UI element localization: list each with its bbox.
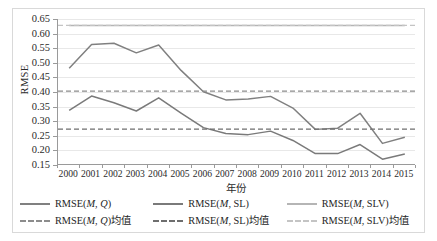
y-tick-label: 0.15 (32, 160, 50, 171)
y-tick-mark (53, 121, 57, 122)
legend-swatch-rmse-m-q-mean (20, 216, 50, 226)
x-tick-mark (57, 165, 58, 168)
y-tick-mark (53, 107, 57, 108)
x-tick-mark (393, 165, 394, 168)
y-tick-label: 0.30 (32, 116, 50, 127)
y-tick-label: 0.50 (32, 58, 50, 69)
legend-swatch-rmse-m-sl-mean (153, 216, 183, 226)
y-axis-tick-labels: 0.650.600.550.500.450.400.350.300.250.20… (12, 19, 54, 165)
x-tick-label: 2004 (148, 168, 167, 179)
x-tick-mark (214, 165, 215, 168)
x-tick-mark (370, 165, 371, 168)
x-tick-label: 2013 (349, 168, 368, 179)
x-tick-label: 2007 (215, 168, 234, 179)
x-tick-mark (303, 165, 304, 168)
x-tick-mark (258, 165, 259, 168)
legend-label-rmse-m-sl-mean: RMSE(M, SL)均值 (188, 215, 269, 226)
x-tick-label: 2006 (193, 168, 212, 179)
x-tick-mark (147, 165, 148, 168)
legend-row-solid: RMSE(M, Q) RMSE(M, SL) RMSE(M, SLV) (20, 196, 420, 211)
legend-item-rmse-m-q: RMSE(M, Q) (20, 196, 153, 211)
x-tick-mark (191, 165, 192, 168)
y-tick-label: 0.35 (32, 101, 50, 112)
x-tick-label: 2005 (170, 168, 189, 179)
x-tick-label: 2012 (327, 168, 346, 179)
y-tick-label: 0.60 (32, 28, 50, 39)
x-tick-mark (415, 165, 416, 168)
legend-label-rmse-m-q-mean: RMSE(M, Q)均值 (55, 215, 131, 226)
legend-item-rmse-m-slv-mean: RMSE(M, SLV)均值 (287, 213, 420, 228)
y-tick-mark (53, 92, 57, 93)
plot-area (57, 19, 415, 165)
y-tick-mark (53, 19, 57, 20)
y-tick-mark (53, 34, 57, 35)
x-tick-mark (348, 165, 349, 168)
x-tick-label: 2003 (126, 168, 145, 179)
x-tick-label: 2015 (394, 168, 413, 179)
x-tick-mark (236, 165, 237, 168)
legend-swatch-rmse-m-q (20, 199, 50, 209)
legend-item-rmse-m-sl-mean: RMSE(M, SL)均值 (153, 213, 286, 228)
x-tick-mark (281, 165, 282, 168)
x-tick-mark (79, 165, 80, 168)
legend-item-rmse-m-q-mean: RMSE(M, Q)均值 (20, 213, 153, 228)
legend-item-rmse-m-sl: RMSE(M, SL) (153, 196, 286, 211)
x-tick-label: 2000 (59, 168, 78, 179)
y-tick-label: 0.65 (32, 14, 50, 25)
x-tick-label: 2001 (81, 168, 100, 179)
legend-label-rmse-m-sl: RMSE(M, SL) (188, 198, 249, 209)
legend-item-rmse-m-slv: RMSE(M, SLV) (287, 196, 420, 211)
y-tick-label: 0.40 (32, 87, 50, 98)
y-tick-label: 0.25 (32, 131, 50, 142)
y-tick-mark (53, 63, 57, 64)
series-line (69, 96, 405, 159)
legend-label-rmse-m-slv: RMSE(M, SLV) (322, 198, 389, 209)
legend-row-dashed: RMSE(M, Q)均值 RMSE(M, SL)均值 RMSE(M, SLV)均… (20, 213, 420, 228)
x-tick-label: 2011 (305, 168, 324, 179)
chart-legend: RMSE(M, Q) RMSE(M, SL) RMSE(M, SLV) RMSE… (20, 196, 420, 228)
x-tick-label: 2002 (103, 168, 122, 179)
legend-swatch-rmse-m-slv-mean (287, 216, 317, 226)
series-line (69, 43, 405, 143)
series-lines (58, 19, 416, 165)
y-tick-mark (53, 48, 57, 49)
legend-label-rmse-m-q: RMSE(M, Q) (55, 198, 111, 209)
y-tick-label: 0.20 (32, 145, 50, 156)
x-tick-label: 2008 (238, 168, 257, 179)
legend-swatch-rmse-m-slv (287, 199, 317, 209)
x-tick-mark (124, 165, 125, 168)
x-tick-mark (169, 165, 170, 168)
x-tick-label: 2009 (260, 168, 279, 179)
y-tick-mark (53, 136, 57, 137)
y-tick-mark (53, 77, 57, 78)
x-tick-label: 2014 (372, 168, 391, 179)
y-tick-label: 0.45 (32, 72, 50, 83)
x-tick-label: 2010 (282, 168, 301, 179)
y-tick-label: 0.55 (32, 43, 50, 54)
x-axis-title: 年份 (57, 180, 415, 195)
chart-container: RMSE 0.650.600.550.500.450.400.350.300.2… (0, 0, 437, 241)
y-tick-mark (53, 150, 57, 151)
x-tick-mark (102, 165, 103, 168)
legend-label-rmse-m-slv-mean: RMSE(M, SLV)均值 (322, 215, 409, 226)
legend-swatch-rmse-m-sl (153, 199, 183, 209)
x-tick-mark (326, 165, 327, 168)
